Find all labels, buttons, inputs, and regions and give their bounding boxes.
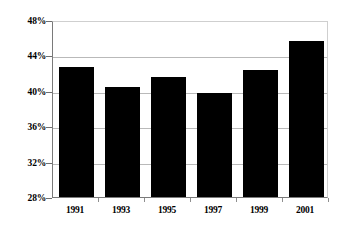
gridline [53, 128, 327, 129]
x-axis-label: 2001 [296, 205, 314, 215]
bar [197, 93, 232, 197]
x-axis-label: 1999 [250, 205, 268, 215]
x-axis-label: 1995 [158, 205, 176, 215]
y-axis-label: 36% [0, 122, 46, 132]
x-axis-tick [282, 198, 283, 202]
gridline [53, 164, 327, 165]
x-axis-tick [98, 198, 99, 202]
y-axis-label: 40% [0, 87, 46, 97]
bar [151, 77, 186, 197]
x-axis-label: 1997 [204, 205, 222, 215]
bar [289, 41, 324, 197]
y-axis-label: 48% [0, 16, 46, 26]
bar-chart: 28%32%36%40%44%48% 199119931995199719992… [0, 0, 360, 240]
y-axis-label: 44% [0, 51, 46, 61]
x-axis-tick [190, 198, 191, 202]
x-axis-tick [144, 198, 145, 202]
plot-area [52, 21, 328, 198]
bar [243, 70, 278, 197]
x-axis-tick [236, 198, 237, 202]
x-axis-tick [328, 198, 329, 202]
y-axis-label: 32% [0, 158, 46, 168]
x-axis-label: 1991 [66, 205, 84, 215]
gridline [53, 57, 327, 58]
x-axis-label: 1993 [112, 205, 130, 215]
y-axis-label: 28% [0, 193, 46, 203]
y-axis-tick [46, 198, 52, 199]
gridline [53, 93, 327, 94]
bar [105, 87, 140, 197]
bar [59, 67, 94, 197]
